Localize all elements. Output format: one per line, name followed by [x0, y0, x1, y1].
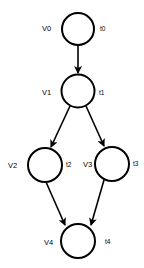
- node-v3: V3 t3: [83, 147, 139, 181]
- edge-v1-v2: [51, 106, 70, 147]
- node-circle-v4: [61, 224, 95, 258]
- node-label-v2: V2: [8, 161, 17, 170]
- node-circle-v0: [62, 13, 94, 45]
- node-circle-v2: [28, 148, 62, 182]
- node-circle-v3: [95, 147, 129, 181]
- node-v1: V1 t1: [42, 75, 105, 108]
- node-label-v1: V1: [42, 88, 51, 97]
- node-v0: V0 t0: [42, 13, 106, 45]
- node-label-v0: V0: [42, 24, 51, 33]
- node-label-v3: V3: [83, 160, 92, 169]
- time-label-t1: t1: [99, 89, 105, 96]
- edge-v3-v4: [91, 180, 104, 225]
- node-label-v4: V4: [44, 238, 53, 247]
- time-label-t4: t4: [105, 238, 111, 245]
- node-v2: V2 t2: [8, 148, 72, 182]
- node-circle-v1: [62, 75, 95, 108]
- time-label-t3: t3: [133, 160, 139, 167]
- edges: [46, 45, 104, 225]
- edge-v1-v3: [86, 106, 104, 146]
- time-label-t0: t0: [100, 25, 106, 32]
- edge-v2-v4: [46, 182, 65, 225]
- dag-diagram: V0 t0 V1 t1 V2 t2 V3 t3 V4 t4: [0, 0, 144, 268]
- time-label-t2: t2: [66, 161, 72, 168]
- node-v4: V4 t4: [44, 224, 111, 258]
